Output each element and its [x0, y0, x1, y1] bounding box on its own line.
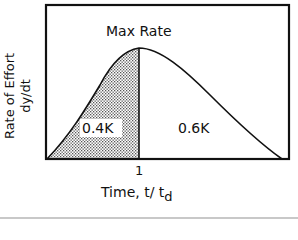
right-area-label: 0.6K: [178, 120, 209, 136]
y-axis-label: Rate of Effort dy/dt: [2, 36, 42, 156]
x-axis-label: Time, t/ td: [101, 184, 173, 204]
max-rate-label: Max Rate: [106, 23, 172, 39]
x-tick-1: 1: [135, 163, 143, 178]
x-axis-label-subscript: d: [164, 189, 172, 204]
left-area-label: 0.4K: [82, 120, 113, 136]
y-axis-label-line1: Rate of Effort: [2, 36, 18, 156]
x-axis-label-main: Time, t/ t: [101, 184, 164, 200]
y-axis-label-line2: dy/dt: [18, 36, 34, 156]
bottom-divider: [0, 217, 298, 219]
